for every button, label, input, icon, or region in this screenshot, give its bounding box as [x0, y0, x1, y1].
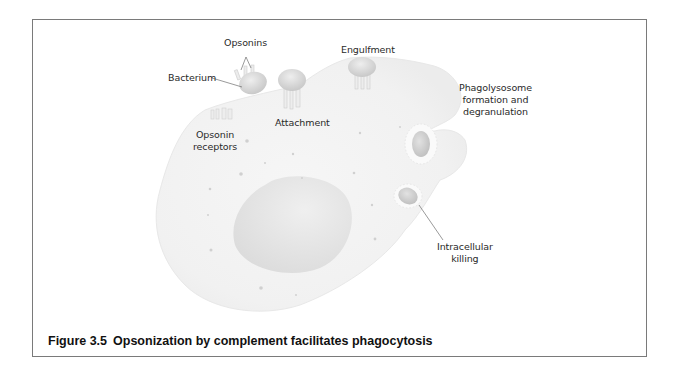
- label-phagolysosome-line2: formation and: [459, 94, 532, 106]
- label-phagolysosome: Phagolysosome formation and degranulatio…: [459, 82, 532, 118]
- label-attachment: Attachment: [275, 117, 330, 129]
- figure-number: Figure 3.5: [48, 334, 107, 348]
- figure-caption-text: Opsonization by complement facilitates p…: [113, 334, 433, 348]
- figure-caption: Figure 3.5Opsonization by complement fac…: [48, 334, 433, 348]
- phagolysosome: [405, 124, 437, 164]
- label-phagolysosome-line3: degranulation: [459, 106, 532, 118]
- label-opsonins: Opsonins: [224, 37, 267, 49]
- bacterium-with-opsonins: [234, 65, 269, 97]
- label-intracellular-killing: Intracellular killing: [437, 241, 493, 265]
- label-killing-line1: Intracellular: [437, 241, 493, 253]
- label-killing-line2: killing: [437, 253, 493, 265]
- label-bacterium: Bacterium: [168, 72, 216, 84]
- label-opsonin-receptors: Opsonin receptors: [193, 129, 237, 153]
- label-opsonin-receptors-line1: Opsonin: [193, 129, 237, 141]
- label-engulfment: Engulfment: [341, 44, 395, 56]
- phagocytosis-diagram: [0, 0, 682, 376]
- label-opsonin-receptors-line2: receptors: [193, 141, 237, 153]
- killing-vesicle: [394, 184, 422, 208]
- label-phagolysosome-line1: Phagolysosome: [459, 82, 532, 94]
